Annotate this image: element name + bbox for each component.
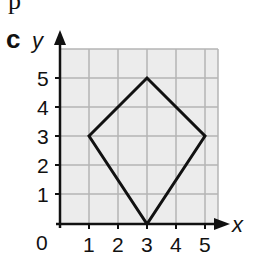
x-tick-label: 3	[141, 233, 153, 256]
y-axis-label: y	[30, 28, 45, 53]
x-axis-arrow-icon	[214, 218, 230, 230]
x-tick-label: 1	[83, 233, 95, 256]
coordinate-grid: y x 0 1 2 3 4 5 1 2 3 4 5	[0, 0, 256, 265]
x-tick-label: 5	[199, 233, 211, 256]
y-axis-arrow-icon	[54, 30, 66, 45]
y-tick-label: 2	[37, 154, 49, 177]
x-tick-label: 2	[112, 233, 124, 256]
x-tick-label: 4	[170, 233, 182, 256]
y-tick-label: 3	[37, 125, 49, 148]
y-tick-label: 5	[37, 67, 49, 90]
y-tick-label: 1	[37, 183, 49, 206]
y-tick-label: 4	[37, 96, 49, 119]
x-axis-label: x	[231, 212, 244, 237]
origin-label: 0	[36, 231, 48, 254]
